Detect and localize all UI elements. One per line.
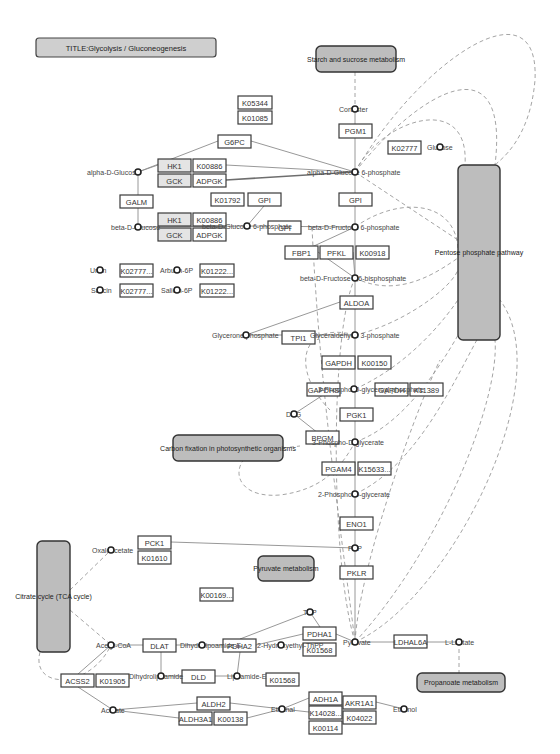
gene-node-pck1[interactable]: PCK1 xyxy=(138,536,171,549)
gene-node-k15633[interactable]: K15633... xyxy=(358,462,391,475)
gene-label: GALM xyxy=(126,198,147,207)
gene-node-pfkl[interactable]: PFKL xyxy=(320,246,353,259)
gene-label: TPI1 xyxy=(291,334,307,343)
map-node-starch[interactable]: Starch and sucrose metabolism xyxy=(307,46,405,72)
gene-node-k00886[interactable]: K00886 xyxy=(193,159,226,172)
compound-node-ethanal[interactable]: Ethanal xyxy=(271,706,295,713)
compound-node-2-phospho-d-glycerate[interactable]: 2-Phospho-D-glycerate xyxy=(318,491,390,499)
gene-node-akr1a1[interactable]: AKR1A1 xyxy=(343,696,376,709)
compound-circle-icon xyxy=(352,169,358,175)
compound-node-pyruvate[interactable]: Pyruvate xyxy=(343,639,371,647)
gene-node-adh1a[interactable]: ADH1A xyxy=(309,692,342,705)
gene-node-gpi[interactable]: GPI xyxy=(248,193,281,206)
compound-node-2-hydroxyethyl-thpp[interactable]: 2-Hydroxyethyl-ThPP xyxy=(257,642,324,650)
compound-node-dihydrolipoamide-e[interactable]: Dihydrolipoamide-E xyxy=(180,642,241,650)
gene-node-k02777[interactable]: K02777... xyxy=(120,264,153,277)
compound-node-pep[interactable]: PEP xyxy=(348,545,362,552)
compound-node-tpp[interactable]: TPP xyxy=(303,609,317,616)
map-node-pyruvate[interactable]: Pyruvate metabolism xyxy=(253,556,319,581)
compound-node-glyceraldehyde-3-phosphate[interactable]: Glyceraldehyde 3-phosphate xyxy=(310,332,400,340)
gene-node-k02777[interactable]: K02777... xyxy=(120,284,153,297)
gene-node-ldhal6a[interactable]: LDHAL6A xyxy=(394,635,427,648)
compound-node-alpha-d-glucose[interactable]: alpha-D-Glucose xyxy=(87,169,141,177)
gene-node-gpi[interactable]: GPI xyxy=(339,193,372,206)
map-node-tca[interactable]: Citrate cycle (TCA cycle) xyxy=(15,541,92,652)
gene-node-k00150[interactable]: K00150 xyxy=(358,356,391,369)
gene-label: K15633... xyxy=(358,465,390,474)
gene-label: DLAT xyxy=(150,642,169,651)
gene-node-aldh3a1[interactable]: ALDH3A1 xyxy=(179,712,212,725)
gene-node-aldh2[interactable]: ALDH2 xyxy=(197,697,230,710)
compound-node-beta-d-glucose[interactable]: beta-D-Glucose xyxy=(111,224,160,231)
compound-node-ethanol[interactable]: Ethanol xyxy=(393,706,417,713)
compound-node-3-phospho-d-glycerate[interactable]: 3-Phospho-D-glycerate xyxy=(312,439,384,447)
compound-node-beta-d-fructose-6-phosphate[interactable]: beta-D-Fructose 6-phosphate xyxy=(308,224,400,232)
gene-node-hk1[interactable]: HK1 xyxy=(158,213,191,226)
gene-node-gapdh[interactable]: GAPDH xyxy=(322,356,355,369)
gene-node-k01610[interactable]: K01610 xyxy=(138,551,171,564)
compound-node-ursin[interactable]: Ursin xyxy=(90,267,106,274)
compound-node-acetate[interactable]: Acetate xyxy=(101,707,125,714)
gene-node-k04022[interactable]: K04022 xyxy=(343,711,376,724)
gene-node-pgm1[interactable]: PGM1 xyxy=(339,124,372,138)
compound-node-salicin[interactable]: Salicin xyxy=(91,287,112,294)
gene-node-adpgk[interactable]: ADPGK xyxy=(193,174,226,187)
compound-node-dpg[interactable]: DPG xyxy=(286,411,301,418)
compound-node-beta-d-glucose-6-phosphate[interactable]: beta-D-Glucose 6-phosphate xyxy=(202,223,292,231)
gene-node-dld[interactable]: DLD xyxy=(182,670,215,683)
gene-node-aldoa[interactable]: ALDOA xyxy=(340,296,373,309)
compound-circle-icon xyxy=(174,287,180,293)
compound-node-cortester[interactable]: Cortester xyxy=(339,106,368,113)
gene-node-k00169[interactable]: K00169... xyxy=(200,588,233,601)
compound-circle-icon xyxy=(352,275,358,281)
gene-node-k01568[interactable]: K01568 xyxy=(266,673,299,686)
compound-label: 2-Hydroxyethyl-ThPP xyxy=(257,642,324,650)
gene-node-pklr[interactable]: PKLR xyxy=(340,566,373,579)
map-node-carbon[interactable]: Carbon fixation in photosynthetic organi… xyxy=(160,435,296,461)
compound-node-glycerone-phosphate[interactable]: Glycerone phosphate xyxy=(212,332,279,340)
gene-node-gck[interactable]: GCK xyxy=(158,174,191,187)
compound-node-arbutin-6p[interactable]: Arbutin-6P xyxy=(160,267,193,274)
gene-node-hk1[interactable]: HK1 xyxy=(158,159,191,172)
gene-label: ALDH3A1 xyxy=(179,715,212,724)
gene-node-pgk1[interactable]: PGK1 xyxy=(340,408,373,421)
gene-node-k02777[interactable]: K02777 xyxy=(388,141,421,154)
compound-node-acetyl-coa[interactable]: Acetyl-CoA xyxy=(96,642,131,650)
gene-node-pdha1[interactable]: PDHA1 xyxy=(303,627,336,640)
gene-label: PKLR xyxy=(347,569,367,578)
gene-node-eno1[interactable]: ENO1 xyxy=(340,517,373,530)
gene-node-fbp1[interactable]: FBP1 xyxy=(285,246,318,259)
gene-node-k00918[interactable]: K00918 xyxy=(356,246,389,259)
gene-node-gck[interactable]: GCK xyxy=(158,228,191,241)
gene-node-k01792[interactable]: K01792 xyxy=(211,193,244,206)
compound-node-dihydrolipoamide[interactable]: Dihydrolipoamide xyxy=(129,673,183,681)
gene-node-k01222[interactable]: K01222... xyxy=(200,284,234,297)
compound-circle-icon xyxy=(158,673,164,679)
gene-node-dlat[interactable]: DLAT xyxy=(143,639,176,652)
compound-node-3-phospho-d-glyceroyl-phosphate[interactable]: 3-Phospho-D-glyceroyl phosphate xyxy=(318,386,424,394)
compound-node-beta-d-fructose-1-6-bisphosphate[interactable]: beta-D-Fructose 1,6-bisphosphate xyxy=(300,275,406,283)
gene-node-g6pc[interactable]: G6PC xyxy=(218,135,251,148)
compound-node-glucose[interactable]: Glucose xyxy=(427,144,453,151)
gene-node-k00114[interactable]: K00114 xyxy=(309,721,342,734)
map-node-propanoate[interactable]: Propanoate metabolism xyxy=(417,673,505,692)
gene-node-k01085[interactable]: K01085 xyxy=(238,111,272,124)
gene-node-k01222[interactable]: K01222... xyxy=(200,264,234,277)
gene-node-pgam4[interactable]: PGAM4 xyxy=(322,462,355,475)
gene-node-k01905[interactable]: K01905 xyxy=(96,674,129,687)
gene-node-acss2[interactable]: ACSS2 xyxy=(61,674,94,687)
compound-circle-icon xyxy=(351,386,357,392)
map-label: Citrate cycle (TCA cycle) xyxy=(15,593,92,601)
gene-label: ENO1 xyxy=(346,520,366,529)
gene-node-k14028[interactable]: K14028... xyxy=(309,706,342,719)
gene-node-k05344[interactable]: K05344 xyxy=(238,96,272,109)
compound-circle-icon xyxy=(307,609,313,615)
compound-node-salicin-6p[interactable]: Salicin-6P xyxy=(161,287,193,294)
compound-node-oxaloacetate[interactable]: Oxaloacetate xyxy=(92,547,133,554)
compound-node-l-lactate[interactable]: L-Lactate xyxy=(445,639,474,646)
gene-node-k00138[interactable]: K00138 xyxy=(214,712,247,725)
compound-node-alpha-d-glucose-6-phosphate[interactable]: alpha-D-Glucose 6-phosphate xyxy=(307,169,400,177)
gene-node-adpgk[interactable]: ADPGK xyxy=(193,228,226,241)
gene-node-galm[interactable]: GALM xyxy=(120,195,153,208)
compound-node-lipoamide-e[interactable]: Lipoamide-E xyxy=(227,673,267,681)
